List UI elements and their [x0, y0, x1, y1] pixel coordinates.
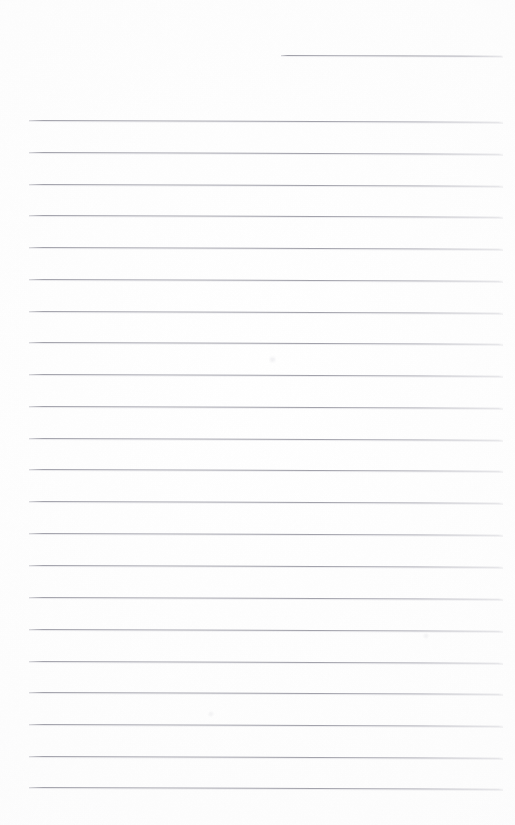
rule-line-1 — [281, 55, 503, 57]
scan-smudge-1 — [270, 357, 275, 362]
scan-smudge-2 — [424, 634, 428, 638]
paper-surface — [0, 0, 515, 825]
scanned-page — [0, 0, 515, 825]
scan-smudge-3 — [209, 712, 213, 716]
